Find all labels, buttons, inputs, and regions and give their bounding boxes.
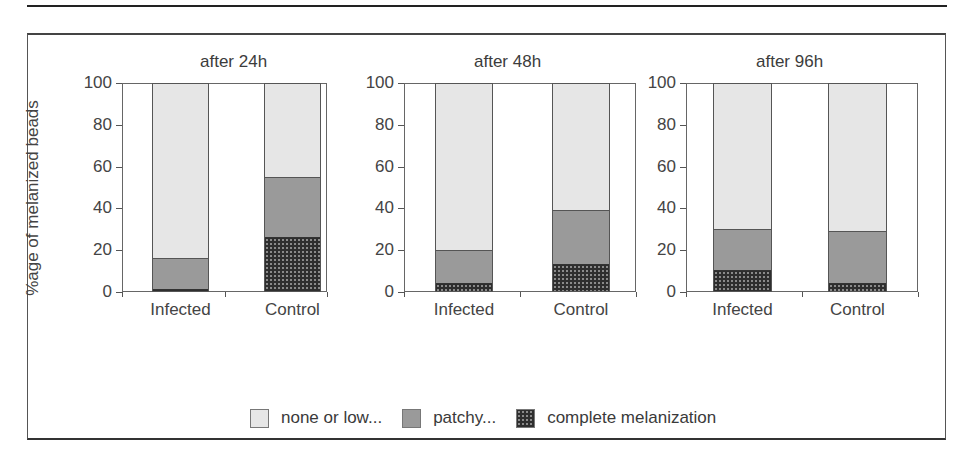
legend-swatch-complete [516,409,535,428]
legend-label-patchy: patchy... [433,408,496,428]
x-category-label: Infected [414,300,514,320]
segment-complete [436,283,492,291]
segment-complete [553,264,609,291]
y-tick [398,83,404,84]
segment-patchy [436,250,492,283]
y-tick-label: 60 [354,157,394,177]
x-tick [327,292,328,297]
y-tick [680,125,686,126]
segment-none [436,84,492,250]
legend: none or low... patchy... complete melani… [250,408,736,428]
x-category-label: Control [808,300,908,320]
segment-none [265,84,320,177]
y-tick [116,125,122,126]
y-tick [680,83,686,84]
segment-patchy [153,258,208,289]
legend-swatch-none [250,409,269,428]
y-tick-label: 20 [354,240,394,260]
segment-patchy [265,177,320,237]
legend-item-patchy: patchy... [402,408,496,428]
x-category-label: Infected [693,300,793,320]
y-tick-label: 60 [636,157,676,177]
stacked-bar-control [552,83,610,292]
y-tick [680,250,686,251]
x-tick [404,292,405,297]
y-tick [398,250,404,251]
panel-title: after 24h [200,52,267,72]
legend-item-complete: complete melanization [516,408,716,428]
y-axis-label: %age of melanized beads [23,78,43,318]
y-tick-label: 40 [636,198,676,218]
y-tick-label: 80 [72,115,112,135]
segment-patchy [714,229,771,270]
y-tick-label: 0 [636,282,676,302]
segment-complete [714,270,771,291]
segment-complete [829,283,886,291]
x-tick [802,292,803,297]
legend-label-complete: complete melanization [547,408,716,428]
x-tick [225,292,226,297]
legend-label-none: none or low... [281,408,382,428]
x-tick [686,292,687,297]
y-tick [398,125,404,126]
y-tick [116,83,122,84]
x-tick [520,292,521,297]
y-tick [116,167,122,168]
y-tick [680,167,686,168]
panel-title: after 48h [474,52,541,72]
stacked-bar-infected [152,83,209,292]
y-tick [116,250,122,251]
page-rule [27,5,947,7]
y-tick [116,208,122,209]
y-tick-label: 0 [354,282,394,302]
segment-none [553,84,609,210]
x-tick [122,292,123,297]
segment-complete [153,289,208,291]
y-tick-label: 80 [636,115,676,135]
legend-swatch-patchy [402,409,421,428]
y-tick-label: 80 [354,115,394,135]
segment-none [829,84,886,231]
legend-item-none: none or low... [250,408,382,428]
segment-none [153,84,208,258]
segment-patchy [553,210,609,264]
y-tick-label: 100 [72,73,112,93]
segment-complete [265,237,320,291]
segment-none [714,84,771,229]
y-tick [680,208,686,209]
stacked-bar-infected [435,83,493,292]
y-tick-label: 40 [72,198,112,218]
x-category-label: Control [243,300,343,320]
stacked-bar-infected [713,83,772,292]
y-tick-label: 20 [636,240,676,260]
segment-patchy [829,231,886,283]
y-tick-label: 60 [72,157,112,177]
y-tick-label: 0 [72,282,112,302]
y-tick [398,167,404,168]
y-tick-label: 100 [354,73,394,93]
x-category-label: Control [531,300,631,320]
x-category-label: Infected [131,300,231,320]
y-tick [398,208,404,209]
y-tick-label: 40 [354,198,394,218]
stacked-bar-control [828,83,887,292]
y-tick-label: 100 [636,73,676,93]
y-tick-label: 20 [72,240,112,260]
panel-title: after 96h [756,52,823,72]
x-tick [918,292,919,297]
stacked-bar-control [264,83,321,292]
